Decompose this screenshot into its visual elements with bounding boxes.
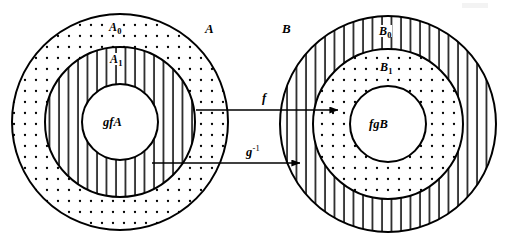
left-middle-ring-label: A1 xyxy=(109,53,123,65)
right-set-group xyxy=(0,0,505,244)
arrow-g-inverse-label: g-1 xyxy=(246,146,259,159)
left-middle-ring-subscript: 1 xyxy=(118,58,122,68)
arrow-f-label: f xyxy=(262,92,266,105)
right-middle-ring-subscript: 1 xyxy=(388,66,392,76)
left-outer-ring-subscript: 0 xyxy=(117,26,121,36)
left-inner-disc-label: gfA xyxy=(103,116,122,129)
right-middle-ring-fill xyxy=(0,0,505,244)
set-mapping-diagram: A B A0 A1 gfA B0 B1 fgB f g-1 xyxy=(0,0,505,244)
diagram-canvas xyxy=(0,0,505,244)
right-inner-disc-label: fgB xyxy=(369,118,388,131)
right-middle-ring-label: B1 xyxy=(379,61,393,73)
right-outer-ring-subscript: 0 xyxy=(387,30,391,40)
arrow-g-inverse-superscript: -1 xyxy=(253,143,260,153)
left-outer-ring-label: A0 xyxy=(108,21,122,33)
right-set-label: B xyxy=(282,22,291,35)
left-set-label: A xyxy=(205,22,214,35)
right-outer-ring-label: B0 xyxy=(378,25,392,37)
